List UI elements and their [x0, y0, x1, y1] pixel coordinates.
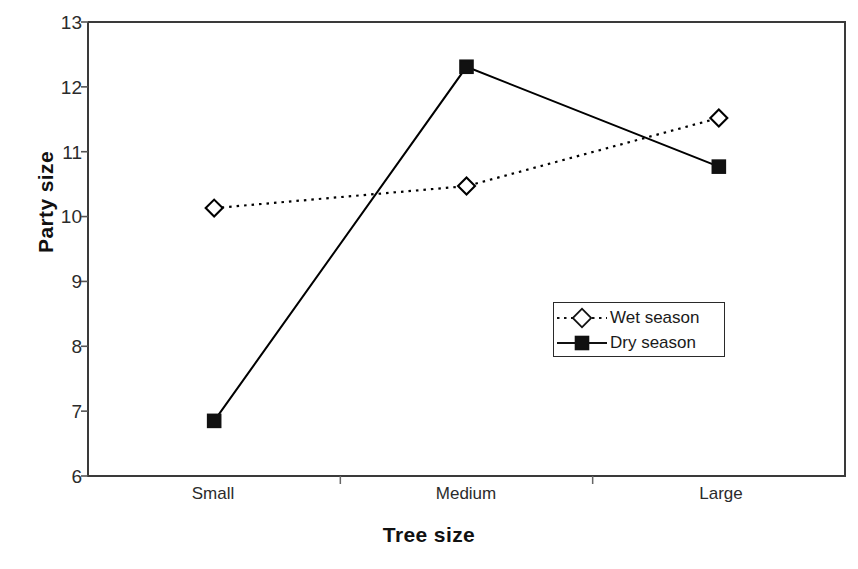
x-axis-title: Tree size [0, 523, 858, 547]
y-axis-ticks [81, 22, 88, 476]
data-point-wet-season-large [710, 110, 727, 127]
series-line-dry-season [214, 67, 719, 421]
legend-label: Wet season [610, 308, 699, 328]
legend-item-wet-season: Wet season [554, 305, 726, 331]
axis-frame [88, 22, 845, 476]
legend-swatch-solid-square-icon [554, 331, 610, 355]
legend: Wet season Dry season [553, 302, 725, 357]
x-axis-ticks [340, 476, 592, 484]
series-layer [206, 60, 728, 427]
legend-label: Dry season [610, 333, 696, 353]
data-point-dry-season-medium [460, 60, 473, 73]
legend-swatch-dotted-diamond-icon [554, 306, 610, 330]
x-tick-label-medium: Medium [386, 484, 546, 504]
data-point-wet-season-small [206, 200, 223, 217]
legend-item-dry-season: Dry season [554, 330, 726, 356]
party-size-line-chart: Party size 13 12 11 10 9 8 7 6 Small Med… [0, 0, 858, 569]
x-tick-label-small: Small [133, 484, 293, 504]
data-point-dry-season-small [208, 414, 221, 427]
data-point-wet-season-medium [458, 178, 475, 195]
x-tick-label-large: Large [641, 484, 801, 504]
data-point-dry-season-large [712, 160, 725, 173]
